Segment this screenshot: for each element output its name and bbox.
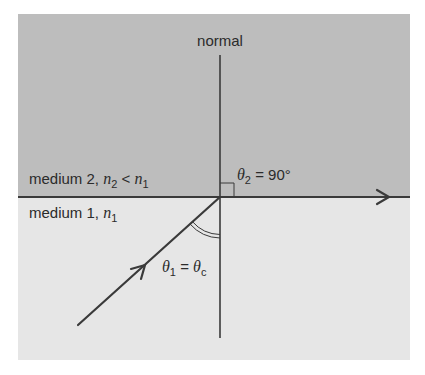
- normal-label: normal: [197, 32, 243, 49]
- critical-angle-diagram: normal medium 2, n2 < n1 medium 1, n1 θ2…: [0, 0, 425, 375]
- medium-1-region: [18, 197, 410, 360]
